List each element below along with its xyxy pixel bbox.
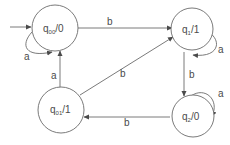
state-q01: q01/1 bbox=[38, 87, 84, 133]
edge-q1-q2: b bbox=[184, 52, 195, 96]
edge-q01-q00: a bbox=[51, 51, 60, 88]
edge-q00-q1: b bbox=[78, 16, 172, 28]
state-q1: q1/1 bbox=[171, 8, 213, 50]
edge-label: b bbox=[124, 117, 130, 128]
edge-label: a bbox=[218, 88, 224, 99]
svg-text:q2/0: q2/0 bbox=[182, 111, 200, 123]
edge-label: a bbox=[218, 44, 224, 55]
svg-text:q1/1: q1/1 bbox=[182, 24, 200, 36]
state-q2: q2/0 bbox=[172, 95, 214, 137]
edge-q2-q01: b bbox=[84, 117, 170, 128]
edge-label: a bbox=[51, 70, 57, 81]
state-diagram: a b a b a b a b q00/0 q1/1 bbox=[0, 0, 230, 145]
edge-label: b bbox=[107, 16, 113, 27]
edge-label: b bbox=[189, 69, 195, 80]
edge-label: b bbox=[120, 68, 126, 79]
edge-q01-q1: b bbox=[80, 37, 173, 95]
state-q00: q00/0 bbox=[32, 5, 78, 51]
edge-label: a bbox=[24, 51, 30, 62]
